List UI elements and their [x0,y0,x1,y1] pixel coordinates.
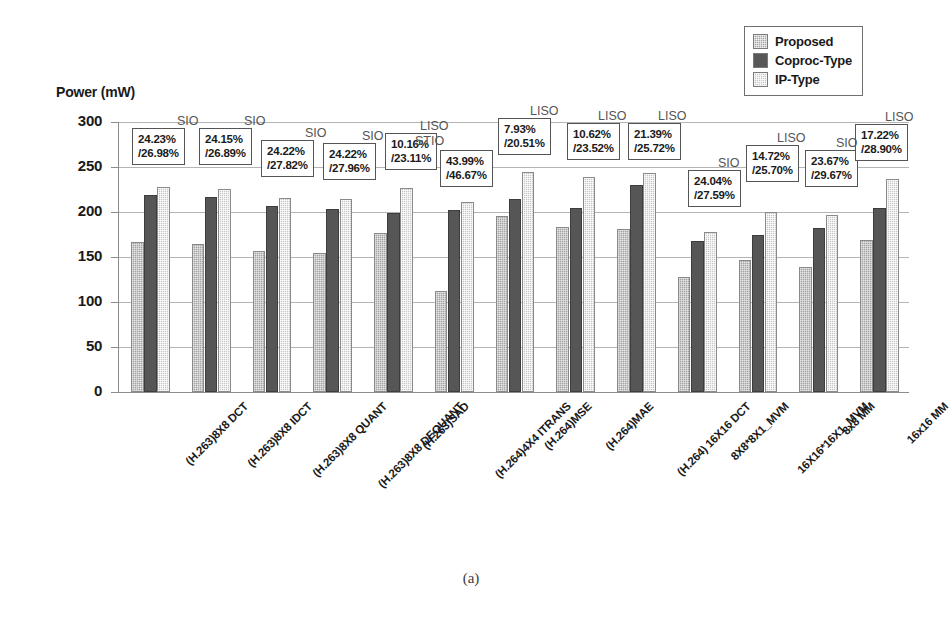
x-tick-label: 8X8*8X1_MVM [729,400,792,463]
bar-proposed [253,251,266,392]
bar-ip [522,172,535,393]
figure-caption: (a) [0,570,942,587]
data-callout-box: 21.39%/25.72% [628,123,681,160]
y-tick-mark [111,167,118,168]
callout-value-primary: 23.67% [811,154,852,168]
callout-value-primary: 24.22% [267,144,308,158]
y-tick-label: 50 [56,337,102,354]
callout-type-tag: LISO [885,110,914,124]
x-tick-label: (H.263)8X8 QUANT [310,400,389,479]
callout-type-tag: LISO [777,131,806,145]
bar-ip [765,212,778,392]
callout-value-secondary: /27.59% [694,188,735,202]
y-axis-title: Power (mW) [56,84,135,100]
y-tick-label: 300 [56,112,102,129]
callout-value-primary: 14.72% [752,149,793,163]
legend-swatch-ip-icon [753,72,768,87]
legend-label-coproc: Coproc-Type [775,53,852,68]
x-tick-label: 16X16*16X1_MVM [795,400,871,476]
bar-proposed [678,277,691,392]
data-callout-box: 23.67%/29.67% [805,150,858,187]
callout-value-primary: 17.22% [861,128,902,142]
bar-ip [583,177,596,392]
callout-type-tag: LISO [598,109,627,123]
bar-ip [218,189,231,392]
callout-type-tag: LISO [658,109,687,123]
callout-value-secondary: /26.98% [138,146,179,160]
y-tick-label: 0 [56,382,102,399]
x-tick-label: 8x8 MM [840,400,877,437]
bar-coproc [266,206,279,392]
x-tick-label: (H.263)8X8 IDCT [245,400,314,469]
bar-proposed [374,233,387,392]
x-tick-label: (H.264) 16X16 DCT [674,400,752,478]
bar-ip [886,179,899,392]
bar-ip [704,232,717,392]
bar-coproc [752,235,765,392]
bar-proposed [313,253,326,393]
bar-coproc [509,199,522,392]
bar-ip [157,187,170,392]
callout-type-tag: SIO [177,114,199,128]
callout-value-secondary: /29.67% [811,168,852,182]
bar-coproc [144,195,157,392]
callout-value-primary: 43.99% [446,154,487,168]
y-tick-mark [111,392,118,393]
bar-coproc [570,208,583,393]
callout-value-primary: 24.04% [694,174,735,188]
y-tick-mark [111,212,118,213]
callout-value-primary: 24.23% [138,132,179,146]
bar-ip [400,188,413,392]
bar-proposed [435,291,448,392]
callout-type-tag: LISO [530,104,559,118]
callout-value-secondary: /26.89% [205,146,246,160]
bar-coproc [387,213,400,392]
callout-type-tag: SIO [718,156,740,170]
y-tick-mark [111,347,118,348]
callout-value-secondary: /25.70% [752,163,793,177]
x-tick-label: 16x16 MM [904,400,950,446]
legend-label-proposed: Proposed [775,34,833,49]
bar-proposed [131,242,144,392]
bar-proposed [860,240,873,392]
callout-value-primary: 24.15% [205,132,246,146]
x-tick-label: (H.264)4X4 ITRANS [493,400,573,480]
bar-proposed [496,216,509,392]
bar-coproc [448,210,461,392]
y-tick-label: 250 [56,157,102,174]
callout-value-secondary: /23.52% [573,141,614,155]
x-tick-label: (H.264)MSE [542,400,594,452]
legend-swatch-proposed-icon [753,34,768,49]
callout-value-secondary: /27.82% [267,158,308,172]
legend-item-proposed: Proposed [753,32,852,51]
bar-coproc [813,228,826,392]
y-tick-mark [111,257,118,258]
bar-coproc [873,208,886,392]
callout-type-tag: SIO [305,126,327,140]
data-callout-box: 43.99%/46.67% [440,150,493,187]
x-tick-label: (H.263)8X8 DEQUANT [375,400,465,490]
data-callout-box: 10.62%/23.52% [567,123,620,160]
callout-value-secondary: /28.90% [861,142,902,156]
bar-ip [643,173,656,392]
bar-proposed [192,244,205,393]
legend-item-ip: IP-Type [753,70,852,89]
bar-proposed [556,227,569,392]
x-tick-label: (H.263)8X8 DCT [184,400,251,467]
bar-coproc [691,241,704,392]
bar-ip [826,215,839,392]
callout-type-tag: SIO [836,136,858,150]
data-callout-box: 24.22%/27.82% [261,140,314,177]
legend-swatch-coproc-icon [753,53,768,68]
x-tick-label: (H.264)MAE [603,400,655,452]
bar-proposed [617,229,630,392]
callout-value-secondary: /20.51% [504,136,545,150]
y-tick-label: 150 [56,247,102,264]
chart-legend: Proposed Coproc-Type IP-Type [744,26,863,96]
callout-type-tag: SIO [244,114,266,128]
y-tick-mark [111,302,118,303]
bar-ip [340,199,353,393]
data-callout-box: 24.15%/26.89% [199,128,252,165]
data-callout-box: 17.22%/28.90% [855,124,908,161]
